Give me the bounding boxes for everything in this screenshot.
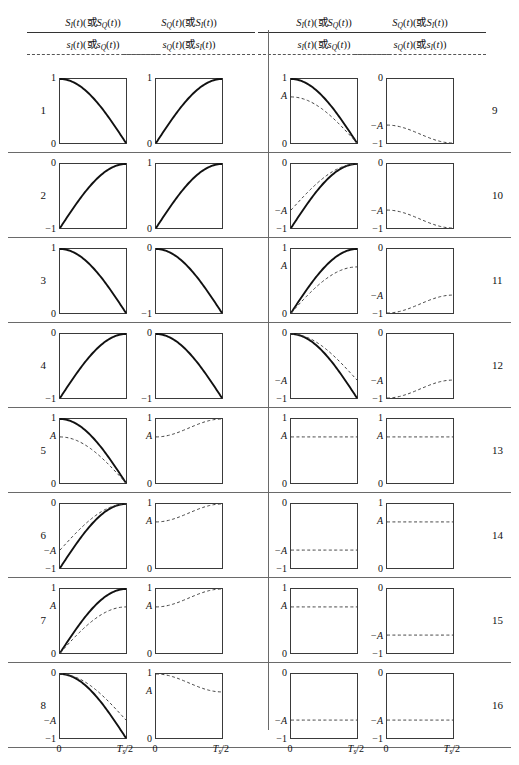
row-separator-3	[8, 322, 511, 323]
ytick-bottom-row2-right: 0	[124, 224, 152, 234]
ytick-mid-row14-right: A	[355, 516, 383, 526]
curve-dashed-row8-left-1	[60, 674, 126, 720]
ytick-mid-row9-right: −A	[355, 121, 383, 131]
xtick-ts-col3: Ts/2	[339, 744, 373, 755]
ytick-bottom-row10-right: −1	[355, 224, 383, 234]
ytick-top-row5-right: 1	[124, 413, 152, 423]
row-number-11: 11	[492, 275, 512, 286]
row-number-12: 12	[492, 360, 512, 371]
curve-solid-row3-right-0	[156, 249, 222, 313]
panel-row6-left	[59, 503, 127, 569]
ytick-mid-row10-left: −A	[259, 206, 287, 216]
ytick-mid-row12-left: −A	[259, 376, 287, 386]
ytick-mid-row16-left: −A	[259, 716, 287, 726]
curve-dashed-row8-right-0	[156, 674, 222, 692]
row-number-3: 3	[26, 275, 46, 286]
ytick-mid-row10-right: −A	[355, 206, 383, 216]
curve-dashed-row5-right-0	[156, 419, 222, 437]
header-dashed-rule-2	[123, 54, 255, 55]
panel-row15-right	[386, 588, 454, 654]
panel-row10-left	[290, 163, 358, 229]
panel-row1-right	[155, 78, 223, 144]
ytick-bottom-row5-left: 0	[28, 479, 56, 489]
xtick-ts-col4: Ts/2	[435, 744, 469, 755]
ytick-top-row13-right: 1	[355, 413, 383, 423]
ytick-mid-row13-left: A	[259, 431, 287, 441]
ytick-bottom-row7-right: 0	[124, 649, 152, 659]
ytick-top-row6-right: 1	[124, 498, 152, 508]
curve-dashed-row10-right-0	[387, 210, 453, 228]
row-number-5: 5	[26, 445, 46, 456]
ytick-top-row7-left: 1	[28, 583, 56, 593]
ytick-top-row15-right: 0	[355, 583, 383, 593]
ytick-top-row9-right: 0	[355, 73, 383, 83]
curve-solid-row1-left-0	[60, 79, 126, 143]
ytick-top-row8-right: 1	[124, 668, 152, 678]
panel-row7-left	[59, 588, 127, 654]
curve-solid-row5-left-0	[60, 419, 126, 483]
row-number-6: 6	[26, 530, 46, 541]
xtick-zero-col1: 0	[52, 744, 66, 754]
ytick-top-row1-left: 1	[28, 73, 56, 83]
row-number-1: 1	[26, 105, 46, 116]
ytick-bottom-row15-right: −1	[355, 649, 383, 659]
ytick-bottom-row14-left: −1	[259, 564, 287, 574]
row-separator-4	[8, 407, 511, 408]
row-number-16: 16	[492, 700, 512, 711]
ytick-top-row7-right: 1	[124, 583, 152, 593]
ytick-top-row12-left: 0	[259, 328, 287, 338]
ytick-bottom-row12-right: −1	[355, 394, 383, 404]
ytick-top-row1-right: 1	[124, 73, 152, 83]
ytick-bottom-row12-left: −1	[259, 394, 287, 404]
panel-row16-right	[386, 673, 454, 739]
ytick-bottom-row6-right: 0	[124, 564, 152, 574]
curve-solid-row12-left-0	[291, 334, 357, 398]
row-number-14: 14	[492, 530, 512, 541]
ytick-bottom-row9-right: −1	[355, 139, 383, 149]
ytick-bottom-row8-left: −1	[28, 734, 56, 744]
column-header-upper-2: SQ(t)(或SI(t))	[123, 14, 255, 32]
ytick-mid-row14-left: −A	[259, 546, 287, 556]
ytick-bottom-row11-left: 0	[259, 309, 287, 319]
curve-dashed-row11-right-0	[387, 295, 453, 313]
column-header-lower-4: sQ(t)(或sI(t))	[354, 33, 486, 55]
header-dashed-rule-4	[354, 54, 486, 55]
ytick-bottom-row15-left: 0	[259, 649, 287, 659]
ytick-top-row9-left: 1	[259, 73, 287, 83]
panel-row14-right	[386, 503, 454, 569]
ytick-top-row16-left: 0	[259, 668, 287, 678]
row-number-10: 10	[492, 190, 512, 201]
panel-row10-right	[386, 163, 454, 229]
curve-dashed-row6-right-0	[156, 504, 222, 522]
ytick-mid-row7-right: A	[124, 601, 152, 611]
panel-row3-right	[155, 248, 223, 314]
panel-row15-left	[290, 588, 358, 654]
curve-dashed-row7-right-0	[156, 589, 222, 607]
curve-dashed-row10-left-1	[291, 164, 357, 210]
column-header-lower-2: sQ(t)(或sI(t))	[123, 33, 255, 55]
xtick-zero-col3: 0	[283, 744, 297, 754]
curve-dashed-row12-right-0	[387, 380, 453, 398]
xtick-zero-col2: 0	[148, 744, 162, 754]
panel-row4-right	[155, 333, 223, 399]
ytick-top-row4-right: 0	[124, 328, 152, 338]
ytick-top-row10-left: 0	[259, 158, 287, 168]
ytick-top-row15-left: 1	[259, 583, 287, 593]
ytick-top-row14-right: 1	[355, 498, 383, 508]
ytick-bottom-row13-left: 0	[259, 479, 287, 489]
curve-solid-row6-left-0	[60, 504, 126, 568]
ytick-bottom-row13-right: 0	[355, 479, 383, 489]
curve-dashed-row9-left-1	[291, 97, 357, 143]
panel-row5-left	[59, 418, 127, 484]
panel-row11-right	[386, 248, 454, 314]
curve-dashed-row6-left-1	[60, 504, 126, 550]
ytick-bottom-row2-left: −1	[28, 224, 56, 234]
panel-row5-right	[155, 418, 223, 484]
curve-solid-row10-left-0	[291, 164, 357, 228]
ytick-top-row11-left: 1	[259, 243, 287, 253]
curve-dashed-row11-left-1	[291, 267, 357, 313]
panel-row8-right	[155, 673, 223, 739]
xtick-ts-col2: Ts/2	[204, 744, 238, 755]
ytick-top-row3-right: 0	[124, 243, 152, 253]
ytick-mid-row12-right: −A	[355, 376, 383, 386]
